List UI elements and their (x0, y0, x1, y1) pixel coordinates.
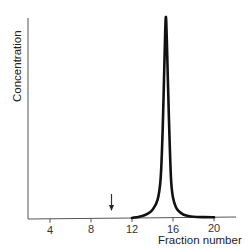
x-axis-label: Fraction number (158, 234, 242, 246)
chromatography-chart: 48121620 Concentration Fraction number (0, 0, 248, 249)
x-tick-label: 8 (88, 223, 94, 235)
x-tick-label: 16 (167, 223, 179, 235)
x-tick-label: 20 (208, 222, 220, 234)
arrow-marker-icon (109, 194, 114, 211)
concentration-curve (132, 17, 214, 218)
y-axis-label: Concentration (11, 30, 23, 102)
x-tick-label: 4 (47, 224, 53, 236)
x-tick-group: 48121620 (47, 217, 220, 236)
x-tick-label: 12 (126, 223, 138, 235)
